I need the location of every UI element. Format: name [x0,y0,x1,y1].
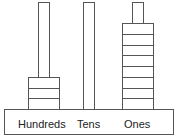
bead [122,88,154,100]
rod [83,2,95,110]
bead [122,98,154,110]
bead [122,55,154,67]
bead [28,88,60,100]
bead [122,23,154,35]
bead [28,77,60,89]
bead [122,45,154,57]
bead [28,98,60,110]
abacus-diagram: Hundreds Tens Ones [0,0,177,137]
bead [122,34,154,46]
bead [122,77,154,89]
label-tens: Tens [77,118,100,130]
label-hundreds: Hundreds [18,118,66,130]
label-ones: Ones [124,118,150,130]
bead [122,66,154,78]
